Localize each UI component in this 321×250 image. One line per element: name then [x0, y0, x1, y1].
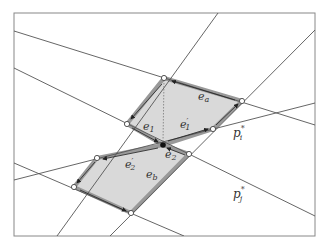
vertex [128, 210, 133, 215]
vertex [186, 151, 191, 156]
vertex [94, 155, 99, 160]
label-pi-star: p*i [233, 124, 245, 142]
arrangement-lines [14, 13, 315, 236]
vertex [161, 75, 166, 80]
label-pj-star: p*j [233, 185, 245, 203]
vertex [210, 126, 215, 131]
vertex [124, 121, 129, 126]
arrangement-diagram: ea eb e1 e′1 e2 e′2 p*i p*j [0, 0, 321, 250]
intersection-dot [160, 142, 166, 148]
vertex [71, 184, 76, 189]
vertex [239, 98, 244, 103]
